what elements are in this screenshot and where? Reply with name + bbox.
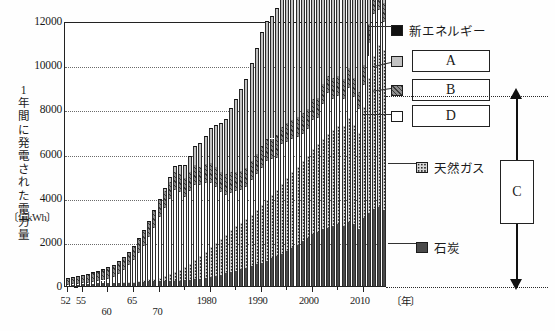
bar-segment-coal <box>142 282 146 286</box>
bar-column <box>331 0 335 286</box>
bar-segment-nuclear-a <box>306 0 310 109</box>
bar-segment-coal <box>117 283 121 286</box>
bar-column <box>168 177 172 286</box>
x-tick-label: 2000 <box>299 295 319 306</box>
bar-segment-coal <box>178 281 182 286</box>
bar-segment-coal <box>301 241 305 286</box>
bar-segment-nuclear-a <box>193 146 197 166</box>
bar-segment-hydro-b <box>331 78 335 99</box>
bar-segment-oil-d <box>362 85 366 107</box>
bar-segment-coal <box>255 264 259 286</box>
bar-column <box>152 211 156 286</box>
bar-segment-nuclear-a <box>152 210 156 211</box>
bar-column <box>382 0 386 286</box>
bar-segment-coal <box>66 285 70 286</box>
bar-segment-oil-d <box>336 96 340 126</box>
bar-column <box>86 274 90 286</box>
bar-column <box>342 0 346 286</box>
bar-segment-oil-d <box>377 10 381 45</box>
bar-segment-natural-gas <box>204 252 208 278</box>
bar-segment-coal <box>168 281 172 286</box>
bar-segment-oil-d <box>244 187 248 219</box>
bar-column <box>112 265 116 286</box>
bar-segment-coal <box>96 283 100 286</box>
bar-segment-hydro-b <box>101 269 105 280</box>
bar-column <box>280 0 284 286</box>
bar-segment-hydro-b <box>290 120 294 139</box>
bar-segment-natural-gas <box>347 118 351 222</box>
legend-label-b: B <box>412 79 490 101</box>
bar-column <box>173 166 177 286</box>
x-tick-label: 1990 <box>248 295 268 306</box>
x-tick-label: 70 <box>153 306 163 317</box>
bar-segment-oil-d <box>234 191 238 226</box>
bar-column <box>163 188 167 286</box>
bar-column <box>178 165 182 286</box>
bar-segment-nuclear-a <box>270 17 274 138</box>
bar-segment-natural-gas <box>147 279 151 281</box>
bar-column <box>204 136 208 286</box>
bar-segment-nuclear-a <box>163 188 167 191</box>
bar-segment-natural-gas <box>316 144 320 232</box>
bar-segment-natural-gas <box>270 195 274 259</box>
bar-segment-hydro-b <box>127 252 131 266</box>
bar-segment-oil-d <box>347 88 351 118</box>
bar-column <box>234 99 238 286</box>
bar-segment-nuclear-a <box>290 0 294 120</box>
bar-segment-natural-gas <box>255 210 259 265</box>
bar-segment-nuclear-a <box>285 0 289 123</box>
legend-new-energy: 新エネルギー <box>391 21 486 40</box>
bar-segment-coal <box>204 278 208 286</box>
bar-segment-coal <box>260 263 264 286</box>
x-tick-label: 2010 <box>350 295 370 306</box>
bar-segment-hydro-b <box>112 265 116 277</box>
bar-segment-nuclear-a <box>362 0 366 65</box>
bar-column <box>219 123 223 286</box>
bar-segment-coal <box>183 280 187 286</box>
bar-segment-natural-gas <box>219 239 223 275</box>
bar-segment-coal <box>326 228 330 286</box>
bar-segment-hydro-b <box>357 92 361 110</box>
bar-segment-hydro-b <box>198 167 202 185</box>
legend-coal: 石炭 <box>416 238 460 257</box>
bar-segment-natural-gas <box>290 172 294 248</box>
bar-segment-natural-gas <box>158 278 162 282</box>
bar-segment-hydro-b <box>96 271 100 281</box>
x-tick-label: 55 <box>76 295 86 306</box>
bar-segment-hydro-b <box>219 172 223 192</box>
bar-segment-nuclear-a <box>301 0 305 113</box>
bar-column <box>296 0 300 286</box>
bar-column <box>76 276 80 286</box>
bar-column <box>214 125 218 286</box>
bar-segment-natural-gas <box>209 247 213 277</box>
bar-segment-oil-d <box>342 99 346 126</box>
bar-segment-hydro-b <box>342 79 346 99</box>
bar-segment-coal <box>112 283 116 286</box>
bar-segment-oil-d <box>122 270 126 282</box>
bar-segment-coal <box>290 248 294 286</box>
bar-segment-nuclear-a <box>142 230 146 231</box>
bar-segment-hydro-b <box>71 277 75 285</box>
bar-segment-coal <box>382 210 386 286</box>
bar-segment-hydro-b <box>244 168 248 187</box>
bar-segment-oil-d <box>316 118 320 145</box>
bar-segment-nuclear-a <box>250 63 254 160</box>
bar-segment-natural-gas <box>326 134 330 228</box>
bar-segment-hydro-b <box>117 261 121 274</box>
x-tick-mark <box>261 287 262 292</box>
bar-segment-nuclear-a <box>331 0 335 78</box>
bar-segment-coal <box>331 226 335 286</box>
y-tick-label: 2000 <box>20 237 62 249</box>
bar-segment-natural-gas <box>362 107 366 217</box>
bar-column <box>71 277 75 286</box>
bar-segment-coal <box>336 224 340 286</box>
bar-segment-oil-d <box>163 208 167 276</box>
bar-segment-oil-d <box>260 168 264 206</box>
bar-segment-natural-gas <box>183 267 187 280</box>
leader-new-energy-vert <box>368 26 369 56</box>
bar-segment-coal <box>86 284 90 286</box>
legend-label-c: C <box>500 160 534 224</box>
bar-column <box>106 267 110 286</box>
bar-segment-oil-d <box>142 246 146 280</box>
x-tick-label: 60 <box>101 306 111 317</box>
